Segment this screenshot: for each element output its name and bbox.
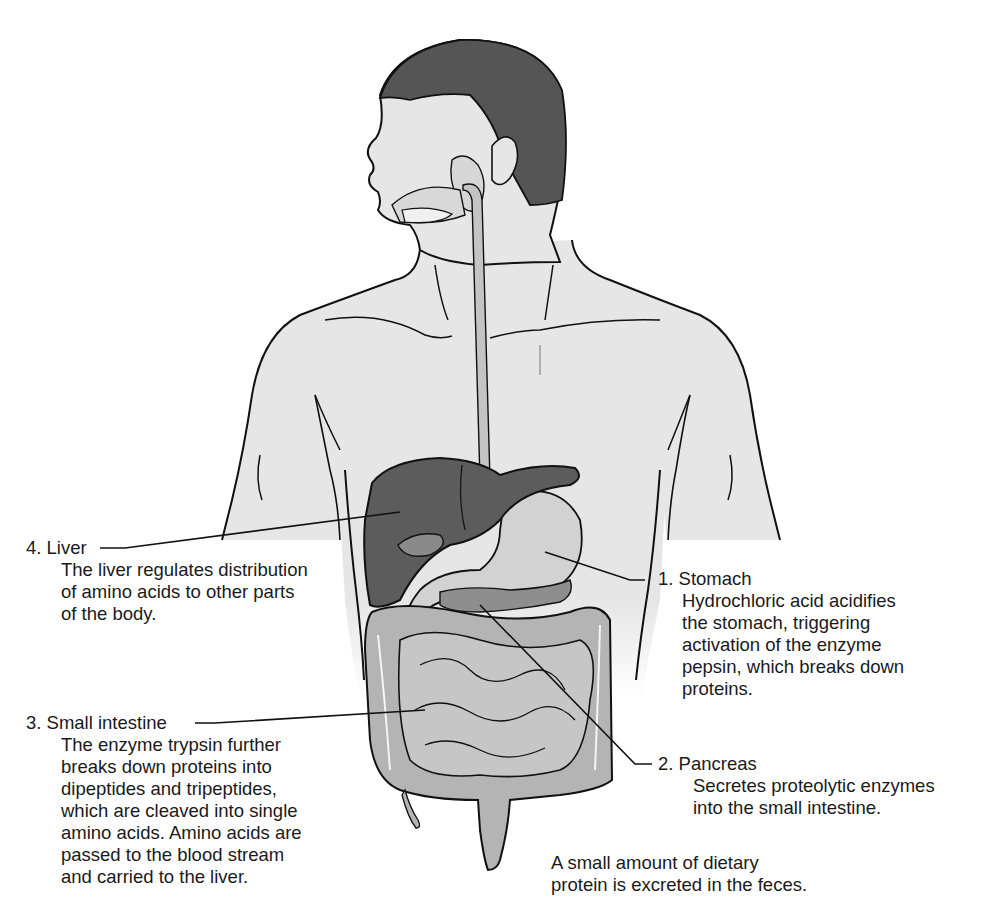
label-stomach: 1. Stomach Hydrochloric acid acidifies t…: [658, 568, 904, 700]
label-pancreas-title: 2. Pancreas: [658, 753, 935, 775]
desc-line: which are cleaved into single: [61, 800, 302, 822]
desc-line: of amino acids to other parts: [61, 581, 308, 603]
label-small-intestine-title: 3. Small intestine: [26, 712, 302, 734]
label-small-intestine: 3. Small intestine The enzyme trypsin fu…: [26, 712, 302, 888]
desc-line: Hydrochloric acid acidifies: [682, 590, 904, 612]
desc-line: passed to the blood stream: [61, 844, 302, 866]
excretion-note: A small amount of dietary protein is exc…: [551, 852, 807, 896]
label-small-intestine-desc: The enzyme trypsin further breaks down p…: [26, 734, 302, 888]
desc-line: dipeptides and tripeptides,: [61, 778, 302, 800]
label-liver: 4. Liver The liver regulates distributio…: [26, 537, 308, 625]
desc-line: into the small intestine.: [693, 797, 935, 819]
desc-line: the stomach, triggering: [682, 612, 904, 634]
label-liver-desc: The liver regulates distribution of amin…: [26, 559, 308, 625]
desc-line: The enzyme trypsin further: [61, 734, 302, 756]
note-line: A small amount of dietary: [551, 852, 807, 874]
intestines: [365, 606, 612, 870]
head: [368, 40, 566, 265]
desc-line: Secretes proteolytic enzymes: [693, 775, 935, 797]
desc-line: of the body.: [61, 603, 308, 625]
desc-line: activation of the enzyme: [682, 634, 904, 656]
label-stomach-desc: Hydrochloric acid acidifies the stomach,…: [658, 590, 904, 700]
desc-line: The liver regulates distribution: [61, 559, 308, 581]
note-line: protein is excreted in the feces.: [551, 874, 807, 896]
desc-line: and carried to the liver.: [61, 866, 302, 888]
desc-line: pepsin, which breaks down: [682, 656, 904, 678]
desc-line: breaks down proteins into: [61, 756, 302, 778]
label-pancreas-desc: Secretes proteolytic enzymes into the sm…: [658, 775, 935, 819]
label-liver-title: 4. Liver: [26, 537, 308, 559]
label-stomach-title: 1. Stomach: [658, 568, 904, 590]
desc-line: proteins.: [682, 678, 904, 700]
desc-line: amino acids. Amino acids are: [61, 822, 302, 844]
label-pancreas: 2. Pancreas Secretes proteolytic enzymes…: [658, 753, 935, 819]
